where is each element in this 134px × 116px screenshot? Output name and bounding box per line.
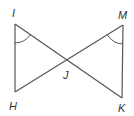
angle-mark-m xyxy=(108,35,124,44)
label-m: M xyxy=(118,9,128,21)
label-h: H xyxy=(9,100,17,112)
angle-mark-i xyxy=(15,35,31,44)
label-j: J xyxy=(62,69,69,81)
label-k: K xyxy=(118,102,126,114)
geometry-diagram: I M J H K xyxy=(0,0,134,116)
segment-mk xyxy=(122,25,123,98)
label-i: I xyxy=(12,7,15,19)
